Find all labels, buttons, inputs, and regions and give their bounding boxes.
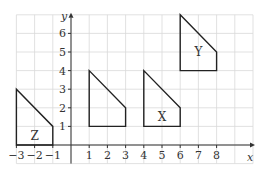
x-tick-label: −3 (8, 149, 24, 162)
x-axis-label: x (247, 151, 254, 164)
y-tick-label: 4 (59, 65, 66, 78)
shape-label-y: Y (193, 45, 203, 59)
x-tick-label: 1 (86, 149, 93, 162)
grid-lines (16, 15, 253, 164)
coordinate-diagram: xy−3−2−112345678123456 ZXY (0, 0, 261, 175)
y-axis-label: y (60, 10, 68, 23)
y-tick-label: 3 (59, 83, 66, 96)
shape-label-x: X (158, 110, 167, 124)
x-tick-label: −1 (45, 149, 61, 162)
x-tick-label: −2 (26, 149, 42, 162)
x-tick-label: 5 (159, 149, 166, 162)
x-tick-label: 2 (104, 149, 111, 162)
x-tick-label: 3 (122, 149, 129, 162)
y-tick-label: 5 (59, 46, 66, 59)
y-tick-label: 1 (59, 120, 66, 133)
x-axis-arrow-icon (250, 143, 255, 148)
y-tick-label: 6 (59, 27, 66, 40)
y-axis-arrow-icon (69, 13, 74, 18)
x-tick-label: 4 (140, 149, 147, 162)
x-tick-label: 6 (177, 149, 184, 162)
x-tick-label: 8 (213, 149, 220, 162)
x-tick-label: 7 (195, 149, 202, 162)
shapes: ZXY (16, 15, 216, 145)
tick-labels: xy−3−2−112345678123456 (8, 10, 254, 164)
y-tick-label: 2 (59, 102, 66, 115)
shape-label-z: Z (30, 129, 38, 143)
